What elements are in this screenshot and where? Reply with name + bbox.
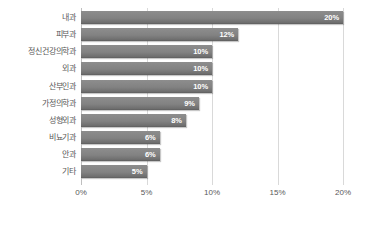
x-tick-label: 5% — [141, 188, 153, 197]
bar-value-label: 8% — [171, 114, 182, 127]
x-tick-label: 10% — [204, 188, 220, 197]
bar-series: 20%12%10%10%10%9%8%6%6%5% — [81, 8, 343, 185]
bar-row: 10% — [81, 45, 343, 58]
category-label: 기타 — [62, 165, 76, 178]
bar[interactable]: 5% — [81, 165, 147, 178]
bar-value-label: 5% — [132, 165, 143, 178]
x-tick-label: 15% — [269, 188, 285, 197]
bar-row: 5% — [81, 165, 343, 178]
bar-value-label: 20% — [324, 11, 339, 24]
bar[interactable]: 8% — [81, 114, 186, 127]
bar-value-label: 10% — [193, 80, 208, 93]
category-label: 성형외과 — [49, 114, 76, 127]
bar[interactable]: 6% — [81, 148, 160, 161]
category-label: 비뇨기과 — [49, 131, 76, 144]
gridline-20% — [343, 8, 344, 185]
bar-row: 9% — [81, 97, 343, 110]
category-label: 산부인과 — [49, 80, 76, 93]
category-label: 외과 — [62, 62, 76, 75]
bar[interactable]: 9% — [81, 97, 199, 110]
category-label: 내과 — [62, 11, 76, 24]
bar-value-label: 12% — [219, 28, 234, 41]
bar[interactable]: 10% — [81, 45, 212, 58]
bar-row: 12% — [81, 28, 343, 41]
bar-row: 6% — [81, 148, 343, 161]
bar-row: 8% — [81, 114, 343, 127]
category-axis-labels: 내과피부과정신건강의학과외과산부인과가정의학과성형외과비뇨기과안과기타 — [0, 8, 76, 185]
bar-value-label: 6% — [145, 148, 156, 161]
x-tick-label: 0% — [75, 188, 87, 197]
category-label: 정신건강의학과 — [28, 45, 76, 58]
bar-row: 6% — [81, 131, 343, 144]
bar-row: 10% — [81, 62, 343, 75]
category-label: 피부과 — [56, 28, 76, 41]
plot-area: 20%12%10%10%10%9%8%6%6%5% — [81, 8, 343, 185]
bar[interactable]: 6% — [81, 131, 160, 144]
bar[interactable]: 10% — [81, 80, 212, 93]
bar[interactable]: 20% — [81, 11, 343, 24]
bar-value-label: 10% — [193, 62, 208, 75]
bar-value-label: 10% — [193, 45, 208, 58]
x-axis-tick-labels: 0%5%10%15%20% — [81, 188, 343, 202]
bar[interactable]: 12% — [81, 28, 238, 41]
category-label: 가정의학과 — [42, 97, 76, 110]
bar-row: 10% — [81, 80, 343, 93]
bar-value-label: 6% — [145, 131, 156, 144]
bar-row: 20% — [81, 11, 343, 24]
bar-chart: 내과피부과정신건강의학과외과산부인과가정의학과성형외과비뇨기과안과기타 20%1… — [0, 0, 369, 226]
bar[interactable]: 10% — [81, 62, 212, 75]
category-label: 안과 — [62, 148, 76, 161]
bar-value-label: 9% — [184, 97, 195, 110]
x-tick-label: 20% — [335, 188, 351, 197]
